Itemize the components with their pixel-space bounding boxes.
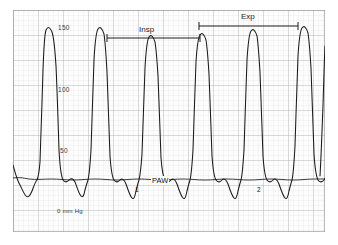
paw-trace-label: PAW (151, 176, 169, 185)
y-tick-label-150: 150 (58, 24, 70, 31)
insp-bracket (107, 34, 200, 42)
y-tick-label-100: 100 (58, 86, 70, 93)
beat-marker-1: 1 (135, 186, 139, 193)
exp-bracket (199, 22, 298, 30)
waveform-figure: 150 100 50 0 mm Hg Insp Exp PAW 1 2 (0, 0, 338, 245)
exp-phase-label: Exp (241, 12, 255, 21)
insp-phase-label: Insp (139, 25, 154, 34)
y-tick-label-zero-mmhg: 0 mm Hg (57, 208, 83, 214)
beat-marker-2: 2 (257, 186, 261, 193)
y-tick-label-50: 50 (60, 147, 68, 154)
phase-bracket-bars (13, 10, 325, 232)
plot-area: 150 100 50 0 mm Hg Insp Exp PAW 1 2 (13, 10, 325, 232)
